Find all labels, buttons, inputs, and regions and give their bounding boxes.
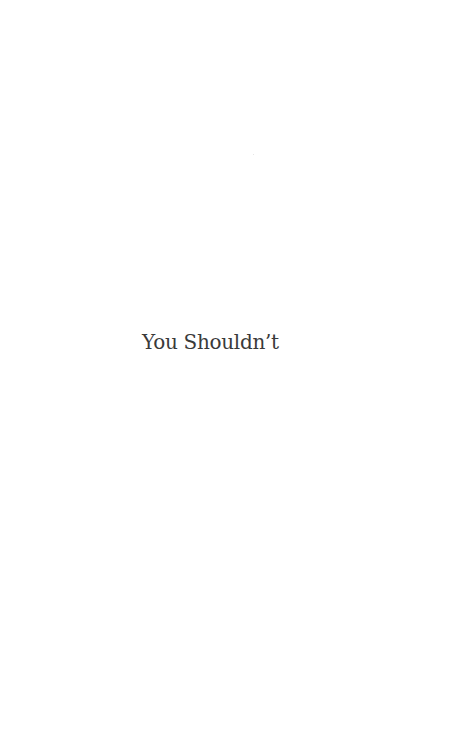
book-page: You Shouldn’t [0, 0, 457, 741]
page-title: You Shouldn’t [142, 327, 306, 357]
paper-speck [253, 154, 254, 155]
